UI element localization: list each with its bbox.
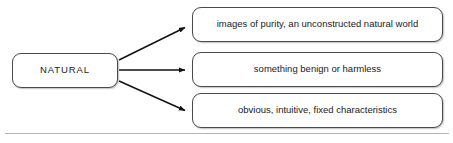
node-natural[interactable]: NATURAL: [12, 53, 118, 88]
connector-natural-to-purity: [119, 28, 185, 61]
node-branch-characteristics[interactable]: obvious, intuitive, fixed characteristic…: [192, 93, 443, 128]
node-branch-characteristics-label: obvious, intuitive, fixed characteristic…: [238, 105, 397, 115]
node-branch-benign-label: something benign or harmless: [254, 64, 381, 74]
footer-divider: [5, 133, 449, 134]
diagram-canvas: NATURAL images of purity, an unconstruct…: [0, 0, 453, 143]
node-branch-benign[interactable]: something benign or harmless: [192, 52, 443, 87]
connector-natural-to-characteristics: [119, 81, 185, 111]
node-branch-purity-label: images of purity, an unconstructed natur…: [217, 19, 419, 29]
node-branch-purity[interactable]: images of purity, an unconstructed natur…: [192, 7, 443, 42]
node-natural-label: NATURAL: [40, 65, 90, 75]
